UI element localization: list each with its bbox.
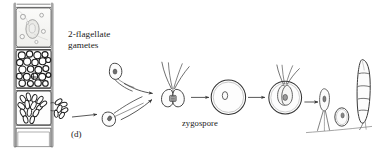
filament-cell-releasing-gametes — [16, 91, 69, 126]
fusing-gamete-pair — [162, 62, 190, 107]
label-zygospore: zygospore — [182, 118, 218, 128]
arrow-upper-gamete-to-fusion — [124, 83, 153, 93]
arrow-lower-gamete-to-fusion — [121, 100, 152, 120]
flagellum — [117, 79, 134, 88]
flagella-bundle — [162, 62, 190, 89]
germinating-zygospore — [269, 65, 302, 114]
zygospore — [211, 80, 245, 114]
arrow-filament-to-gamete — [72, 114, 97, 117]
escaping-gametes — [54, 98, 69, 120]
free-gamete-lower — [102, 97, 143, 127]
label-2-flagellate-gametes: 2-flagellate gametes — [68, 29, 110, 51]
algae-life-cycle-figure: 2-flagellate gametes zygospore (d) — [0, 0, 381, 159]
vegetative-filament-group — [14, 3, 69, 147]
flagellum — [114, 79, 132, 91]
sporeling-oval — [335, 108, 349, 126]
panel-label: (d) — [71, 129, 82, 140]
substrate-line — [306, 126, 372, 132]
flagellum — [114, 97, 143, 114]
sporeling-small — [317, 89, 329, 131]
sporeling-group — [306, 60, 372, 133]
filament-cell-vacuolate — [16, 4, 51, 47]
sporeling-filament — [357, 60, 370, 130]
figure-illustration — [0, 0, 381, 159]
filament-cell-empty — [14, 128, 52, 147]
filament-cell-granular — [16, 50, 51, 89]
